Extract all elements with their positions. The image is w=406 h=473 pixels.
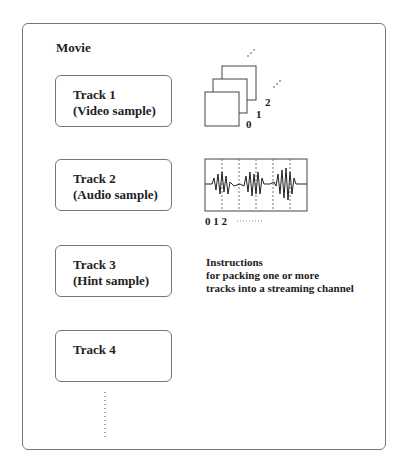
video-frames-icon [205,66,256,126]
hint-line-2: for packing one or more [206,269,354,282]
audio-waveform-icon [205,159,307,211]
frame-label-0: 0 [246,118,252,131]
frame-label-2: 2 [265,96,271,109]
audio-sample-labels: 0 1 2 [205,215,227,228]
diagram-graphics [0,0,406,473]
hint-description: Instructions for packing one or more tra… [206,256,354,295]
hint-line-3: tracks into a streaming channel [206,282,354,295]
frame-label-1: 1 [256,108,262,121]
hint-line-1: Instructions [206,256,354,269]
